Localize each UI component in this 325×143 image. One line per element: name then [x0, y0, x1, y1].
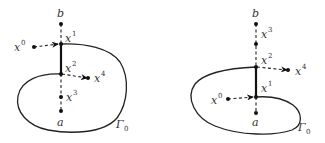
label-x3: x — [66, 91, 73, 104]
point-x0 — [226, 97, 230, 101]
point-x4 — [286, 68, 290, 72]
point-x3 — [254, 42, 258, 46]
point-x0 — [32, 45, 36, 49]
label-gamma-sub: 0 — [124, 125, 128, 133]
label-x2: x — [65, 62, 72, 75]
label-x1-sup: 1 — [268, 80, 272, 88]
arrow-x2-to-x4 — [257, 67, 287, 70]
point-x4 — [86, 76, 90, 80]
diagram-svg: b a x 1 x 2 x 3 x 0 x 4 Γ 0 b a — [0, 0, 325, 143]
label-x2-sup: 2 — [72, 60, 76, 68]
label-x2: x — [261, 54, 268, 67]
point-x1 — [254, 95, 258, 99]
point-x3 — [59, 95, 63, 99]
label-x4: x — [295, 65, 302, 78]
label-x1: x — [261, 82, 268, 95]
label-x4-sup: 4 — [302, 63, 307, 71]
point-x2 — [59, 72, 63, 76]
label-x4-sup: 4 — [101, 70, 106, 78]
diagram-canvas: b a x 1 x 2 x 3 x 0 x 4 Γ 0 b a — [0, 0, 325, 143]
gamma-curve-right — [191, 67, 300, 134]
label-x3-sup: 3 — [73, 89, 77, 97]
right-figure: b a x 3 x 2 x 1 x 0 x 4 Γ 0 — [191, 7, 310, 136]
label-x0-sup: 0 — [21, 39, 25, 47]
left-figure: b a x 1 x 2 x 3 x 0 x 4 Γ 0 — [14, 7, 128, 133]
label-gamma-sub: 0 — [306, 128, 310, 136]
label-b: b — [57, 7, 64, 20]
label-x2-sup: 2 — [268, 52, 272, 60]
label-x1: x — [65, 32, 72, 45]
point-x2 — [254, 65, 258, 69]
point-b — [59, 22, 63, 26]
label-x0-sup: 0 — [218, 92, 222, 100]
label-x0: x — [14, 41, 21, 54]
arrow-x0-to-x1 — [228, 97, 253, 99]
label-a: a — [57, 116, 64, 129]
label-x3-sup: 3 — [268, 26, 272, 34]
point-a — [59, 109, 63, 113]
label-b: b — [252, 7, 259, 20]
point-x1 — [59, 42, 63, 46]
point-a — [254, 111, 258, 115]
label-x4: x — [94, 72, 101, 85]
label-gamma: Γ — [115, 118, 124, 131]
arrow-x0-to-x1 — [34, 44, 58, 47]
label-x1-sup: 1 — [72, 30, 76, 38]
label-a: a — [252, 116, 259, 129]
label-gamma: Γ — [297, 121, 306, 134]
label-x0: x — [211, 94, 218, 107]
point-b — [254, 22, 258, 26]
label-x3: x — [261, 28, 268, 41]
